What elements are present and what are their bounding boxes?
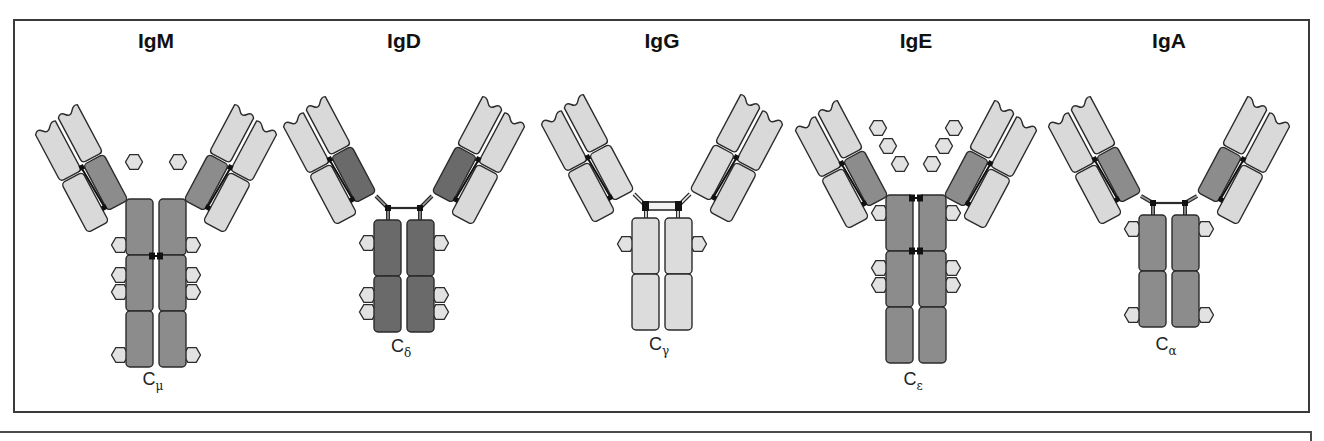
carbohydrate-hexagon-icon [880, 139, 897, 154]
antibody-igm: IgM Cμ [32, 29, 280, 393]
heavy-chain-constant-domain [407, 220, 434, 276]
fab-arm-right [538, 94, 639, 223]
antibody-title: IgA [1152, 29, 1186, 52]
antibody-igg: IgG Cγ [538, 29, 786, 358]
disulfide-node [909, 248, 915, 255]
fab-arm-right [280, 96, 381, 225]
constant-region-label: Cα [1155, 334, 1176, 358]
heavy-chain-constant-domain [374, 220, 401, 276]
heavy-chain-constant-domain [665, 274, 692, 330]
heavy-chain-constant-domain [126, 199, 153, 255]
carbohydrate-hexagon-icon [936, 139, 953, 154]
antibody-title: IgG [645, 29, 680, 52]
fab-arm-left [427, 96, 528, 225]
constant-region-label: Cε [903, 369, 922, 393]
heavy-chain-constant-domain [886, 251, 913, 307]
heavy-chain-constant-domain [159, 311, 186, 367]
heavy-chain-constant-domain [1139, 215, 1166, 271]
constant-region-label: Cδ [391, 336, 411, 360]
heavy-chain-constant-domain [159, 255, 186, 311]
antibody-title: IgD [387, 29, 421, 52]
heavy-chain-constant-domain [632, 274, 659, 330]
heavy-chain-constant-domain [1172, 271, 1199, 327]
hinge-region [1141, 196, 1197, 215]
heavy-chain-constant-domain [665, 218, 692, 274]
heavy-chain-constant-domain [374, 276, 401, 332]
igd-structure [280, 96, 528, 332]
heavy-chain-constant-domain [126, 311, 153, 367]
ige-structure [792, 100, 1040, 363]
disulfide-node [157, 253, 163, 260]
antibody-iga: IgA Cα [1045, 29, 1293, 358]
carbohydrate-hexagon-icon [170, 155, 187, 170]
carbohydrate-hexagon-icon [892, 157, 909, 172]
fab-arm-left [179, 104, 280, 233]
antibody-igd: IgD Cδ [280, 29, 528, 360]
fab-arm-right [1045, 96, 1146, 225]
hinge-region [634, 194, 690, 218]
heavy-chain-constant-domain [919, 307, 946, 363]
heavy-chain-constant-domain [159, 199, 186, 255]
heavy-chain-constant-domain [886, 195, 913, 251]
heavy-chain-constant-domain [886, 307, 913, 363]
heavy-chain-constant-domain [126, 255, 153, 311]
heavy-chain-constant-domain [407, 276, 434, 332]
constant-region-label: Cγ [649, 334, 669, 358]
igm-structure [32, 104, 280, 367]
carbohydrate-hexagon-icon [924, 157, 941, 172]
disulfide-node [917, 195, 923, 202]
fab-arm-left [1192, 96, 1293, 225]
carbohydrate-hexagon-icon [946, 121, 963, 136]
heavy-chain-constant-domain [1172, 215, 1199, 271]
disulfide-node [917, 248, 923, 255]
disulfide-node [909, 195, 915, 202]
igg-structure [538, 94, 786, 330]
iga-structure [1045, 96, 1293, 327]
antibody-title: IgM [138, 29, 174, 52]
antibody-title: IgE [900, 29, 933, 52]
hinge-region [376, 196, 432, 220]
carbohydrate-hexagon-icon [126, 155, 143, 170]
fab-arm-left [685, 94, 786, 223]
disulfide-node [149, 253, 155, 260]
carbohydrate-hexagon-icon [870, 121, 887, 136]
fab-arm-right [32, 104, 133, 233]
heavy-chain-constant-domain [632, 218, 659, 274]
antibody-ige: IgE Cε [792, 29, 1040, 393]
heavy-chain-constant-domain [919, 251, 946, 307]
heavy-chain-constant-domain [1139, 271, 1166, 327]
heavy-chain-constant-domain [919, 195, 946, 251]
constant-region-label: Cμ [143, 369, 164, 393]
